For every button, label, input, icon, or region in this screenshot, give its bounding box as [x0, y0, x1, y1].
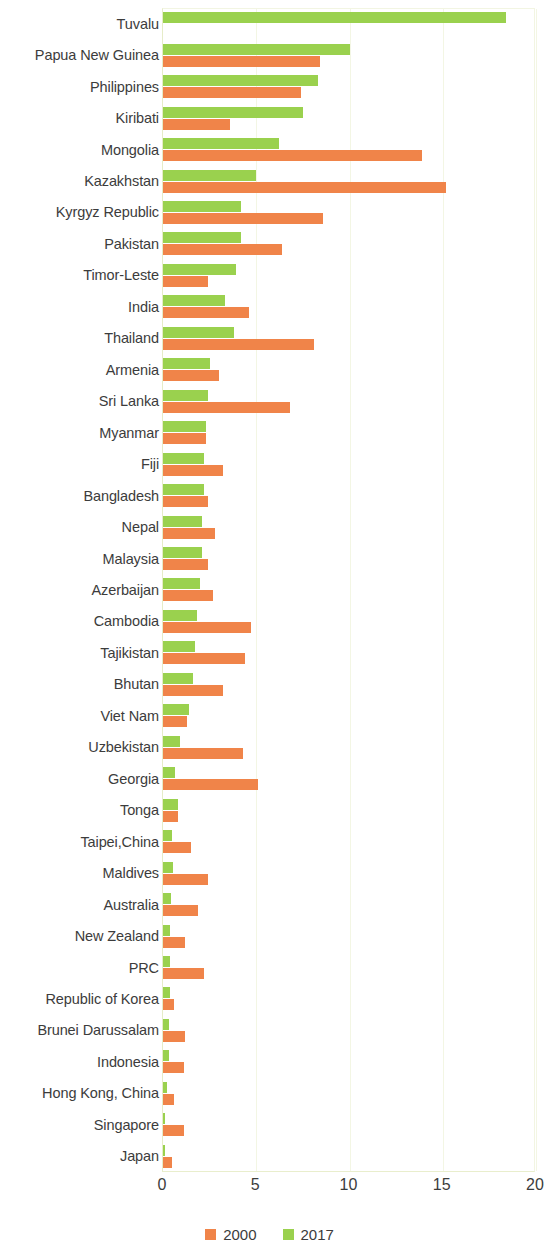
- bar-2000[interactable]: [163, 937, 185, 948]
- bar-2017[interactable]: [163, 641, 195, 652]
- bar-2000[interactable]: [163, 842, 191, 853]
- category-label: PRC: [0, 961, 159, 976]
- bar-2017[interactable]: [163, 956, 170, 967]
- bar-2017[interactable]: [163, 201, 241, 212]
- bar-2017[interactable]: [163, 358, 210, 369]
- bar-group: [163, 610, 251, 633]
- bar-2000[interactable]: [163, 370, 219, 381]
- category-label: Bangladesh: [0, 489, 159, 504]
- bar-2000[interactable]: [163, 590, 213, 601]
- bar-2000[interactable]: [163, 87, 301, 98]
- bar-2017[interactable]: [163, 232, 241, 243]
- bar-2017[interactable]: [163, 1113, 165, 1124]
- bar-2000[interactable]: [163, 244, 282, 255]
- bar-2000[interactable]: [163, 56, 320, 67]
- bar-2017[interactable]: [163, 547, 202, 558]
- bar-2000[interactable]: [163, 653, 245, 664]
- bar-2000[interactable]: [163, 905, 198, 916]
- legend-item-2017[interactable]: 2017: [283, 1226, 334, 1243]
- bar-2000[interactable]: [163, 150, 422, 161]
- bar-2000[interactable]: [163, 307, 249, 318]
- bar-2000[interactable]: [163, 433, 206, 444]
- category-label: Azerbaijan: [0, 583, 159, 598]
- x-tick-label: 15: [420, 1176, 464, 1194]
- bar-2000[interactable]: [163, 1125, 184, 1136]
- bar-2017[interactable]: [163, 390, 208, 401]
- bar-2017[interactable]: [163, 1050, 169, 1061]
- bar-2017[interactable]: [163, 1082, 167, 1093]
- bar-2017[interactable]: [163, 1019, 169, 1030]
- bar-row: Cambodia: [0, 606, 539, 637]
- category-label: Papua New Guinea: [0, 48, 159, 63]
- bar-2000[interactable]: [163, 182, 446, 193]
- category-label: Sri Lanka: [0, 394, 159, 409]
- category-label: Japan: [0, 1149, 159, 1164]
- category-label: Kyrgyz Republic: [0, 205, 159, 220]
- bar-row: Nepal: [0, 511, 539, 542]
- bar-2000[interactable]: [163, 276, 208, 287]
- bar-2017[interactable]: [163, 44, 350, 55]
- bar-group: [163, 484, 208, 507]
- category-label: Pakistan: [0, 237, 159, 252]
- bar-2017[interactable]: [163, 75, 318, 86]
- bar-2000[interactable]: [163, 779, 258, 790]
- category-label: Philippines: [0, 80, 159, 95]
- bar-2017[interactable]: [163, 421, 206, 432]
- bar-2000[interactable]: [163, 1157, 172, 1168]
- bar-2017[interactable]: [163, 799, 178, 810]
- bar-2017[interactable]: [163, 830, 172, 841]
- bar-group: [163, 390, 290, 413]
- bar-2017[interactable]: [163, 767, 175, 778]
- category-label: Malaysia: [0, 552, 159, 567]
- bar-2017[interactable]: [163, 736, 180, 747]
- bar-2017[interactable]: [163, 578, 200, 589]
- bar-2017[interactable]: [163, 107, 303, 118]
- bar-2017[interactable]: [163, 264, 236, 275]
- bar-2017[interactable]: [163, 138, 279, 149]
- bar-row: Republic of Korea: [0, 983, 539, 1014]
- bar-2000[interactable]: [163, 811, 178, 822]
- bar-2000[interactable]: [163, 685, 223, 696]
- bar-2000[interactable]: [163, 465, 223, 476]
- bar-2017[interactable]: [163, 987, 170, 998]
- bar-row: Singapore: [0, 1109, 539, 1140]
- bar-2000[interactable]: [163, 716, 187, 727]
- bar-2000[interactable]: [163, 999, 174, 1010]
- bar-2017[interactable]: [163, 925, 170, 936]
- bar-2000[interactable]: [163, 119, 230, 130]
- bar-group: [163, 264, 236, 287]
- bar-2017[interactable]: [163, 484, 204, 495]
- bar-2017[interactable]: [163, 704, 189, 715]
- bar-2000[interactable]: [163, 622, 251, 633]
- bar-2000[interactable]: [163, 496, 208, 507]
- bar-2017[interactable]: [163, 327, 234, 338]
- bar-2000[interactable]: [163, 1094, 174, 1105]
- bar-2000[interactable]: [163, 874, 208, 885]
- bar-2017[interactable]: [163, 170, 256, 181]
- bar-2017[interactable]: [163, 516, 202, 527]
- legend-item-2000[interactable]: 2000: [205, 1226, 256, 1243]
- bar-2000[interactable]: [163, 1031, 185, 1042]
- bar-row: Bhutan: [0, 669, 539, 700]
- bar-2017[interactable]: [163, 12, 506, 23]
- bar-2000[interactable]: [163, 559, 208, 570]
- bar-2017[interactable]: [163, 295, 225, 306]
- bar-2017[interactable]: [163, 453, 204, 464]
- bar-group: [163, 1145, 172, 1168]
- bar-2017[interactable]: [163, 862, 173, 873]
- bar-2017[interactable]: [163, 893, 171, 904]
- bar-2000[interactable]: [163, 748, 243, 759]
- bar-2000[interactable]: [163, 213, 323, 224]
- bar-2017[interactable]: [163, 610, 197, 621]
- bar-group: [163, 578, 213, 601]
- category-label: New Zealand: [0, 929, 159, 944]
- bar-2000[interactable]: [163, 339, 314, 350]
- bar-2000[interactable]: [163, 528, 215, 539]
- bar-2000[interactable]: [163, 402, 290, 413]
- bar-2017[interactable]: [163, 1145, 165, 1156]
- bar-2000[interactable]: [163, 968, 204, 979]
- bar-row: Sri Lanka: [0, 386, 539, 417]
- bar-2000[interactable]: [163, 1062, 184, 1073]
- bar-2017[interactable]: [163, 673, 193, 684]
- bar-group: [163, 295, 249, 318]
